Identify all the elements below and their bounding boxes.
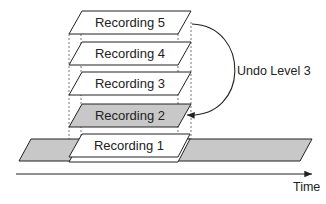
- svg-text:Recording 5: Recording 5: [95, 15, 165, 30]
- undo-arrow-icon: [187, 24, 235, 115]
- time-label: Time: [293, 180, 320, 194]
- layer-recording-5: Recording 5: [69, 11, 191, 34]
- undo-diagram: Recording 1 Recording 2 Recording 3 Reco…: [0, 0, 326, 204]
- svg-text:Recording 4: Recording 4: [95, 46, 165, 61]
- layer-recording-4: Recording 4: [69, 42, 191, 65]
- svg-text:Recording 2: Recording 2: [95, 108, 165, 123]
- layer-recording-2: Recording 2: [69, 104, 191, 127]
- svg-text:Recording 1: Recording 1: [94, 138, 164, 153]
- layer-recording-1: Recording 1: [69, 134, 190, 162]
- svg-text:Recording 3: Recording 3: [95, 76, 165, 91]
- layer-recording-3: Recording 3: [69, 72, 191, 95]
- undo-label: Undo Level 3: [237, 64, 311, 78]
